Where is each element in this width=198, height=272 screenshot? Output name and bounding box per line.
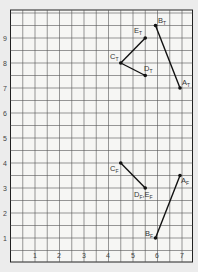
x-tick-1: 1 bbox=[33, 252, 37, 259]
y-tick-5: 5 bbox=[3, 135, 7, 142]
y-tick-1: 1 bbox=[3, 235, 7, 242]
y-tick-4: 4 bbox=[3, 160, 7, 167]
y-tick-6: 6 bbox=[3, 110, 7, 117]
point-et bbox=[143, 36, 147, 40]
x-tick-5: 5 bbox=[131, 252, 135, 259]
point-dt bbox=[143, 74, 147, 78]
point-ct bbox=[119, 61, 123, 65]
point-cf bbox=[119, 161, 123, 165]
y-tick-3: 3 bbox=[3, 185, 7, 192]
orthographic-projection-diagram: 1 2 3 4 5 6 7 8 9 1 2 3 4 5 6 7 bbox=[0, 0, 198, 272]
x-tick-2: 2 bbox=[57, 252, 61, 259]
point-bt bbox=[154, 24, 158, 28]
grid-frame bbox=[11, 10, 193, 262]
y-axis-ticks: 1 2 3 4 5 6 7 8 9 bbox=[3, 35, 7, 242]
y-tick-9: 9 bbox=[3, 35, 7, 42]
x-tick-3: 3 bbox=[82, 252, 86, 259]
x-tick-6: 6 bbox=[155, 252, 159, 259]
y-tick-8: 8 bbox=[3, 60, 7, 67]
x-tick-4: 4 bbox=[106, 252, 110, 259]
y-tick-2: 2 bbox=[3, 210, 7, 217]
x-tick-7: 7 bbox=[180, 252, 184, 259]
point-bf bbox=[154, 236, 158, 240]
y-tick-7: 7 bbox=[3, 85, 7, 92]
